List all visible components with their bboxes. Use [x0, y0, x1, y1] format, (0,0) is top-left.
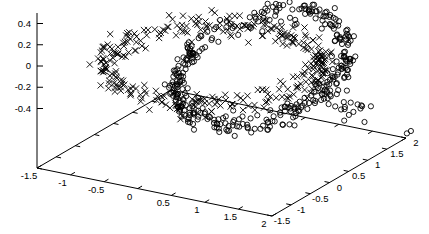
cross-marker: [276, 35, 282, 41]
cross-marker: [98, 82, 104, 88]
circle-marker: [346, 112, 351, 117]
cross-marker: [273, 95, 279, 101]
series-ring-2-stray: [404, 128, 413, 136]
x-tick: [104, 179, 108, 182]
cross-marker: [180, 13, 186, 19]
y-tick-label: 0: [337, 182, 342, 193]
cross-marker: [132, 47, 138, 53]
x-tick-label: -1: [58, 177, 66, 188]
x-tick: [37, 165, 41, 168]
circle-marker: [236, 32, 241, 37]
circle-marker: [348, 100, 353, 105]
circle-marker: [255, 113, 260, 118]
y-tick-mirror: [37, 168, 42, 169]
y-tick-label: -1: [297, 204, 305, 215]
circle-marker: [339, 107, 344, 112]
y-tick-label: 1: [375, 159, 380, 170]
circle-marker: [217, 129, 222, 134]
x-tick-mirror: [402, 138, 406, 141]
y-tick-label: 1.5: [390, 148, 403, 159]
cross-marker: [238, 95, 244, 101]
cross-marker: [123, 54, 129, 60]
cross-marker: [285, 86, 291, 92]
cross-marker: [193, 16, 199, 22]
cross-marker: [138, 38, 144, 44]
circle-marker: [305, 106, 310, 111]
circle-marker: [342, 118, 347, 123]
cross-marker: [316, 34, 322, 40]
x-tick-label: -1.5: [21, 170, 37, 181]
cross-marker: [115, 44, 121, 50]
circle-marker: [175, 57, 180, 62]
circle-marker: [362, 119, 367, 124]
cross-marker: [133, 85, 139, 91]
circle-marker: [332, 6, 337, 11]
circle-marker: [368, 104, 373, 109]
cross-marker: [234, 92, 240, 98]
x-tick-label: 0.5: [157, 197, 170, 208]
cross-marker: [228, 104, 234, 110]
circle-marker: [218, 17, 223, 22]
cross-marker: [276, 86, 282, 92]
circle-marker: [249, 130, 254, 135]
circle-marker: [176, 63, 181, 68]
cross-marker: [279, 94, 285, 100]
circle-marker: [351, 34, 356, 39]
circle-marker: [333, 104, 338, 109]
x-tick-mirror: [335, 124, 339, 127]
x-tick: [138, 186, 142, 189]
circle-marker: [260, 29, 265, 34]
circle-marker: [270, 4, 275, 9]
circle-marker: [290, 7, 295, 12]
circle-marker: [318, 13, 323, 18]
cross-marker: [277, 78, 283, 84]
cross-marker: [146, 107, 152, 113]
circle-marker: [232, 133, 237, 138]
circle-marker: [271, 114, 276, 119]
plot-figure: -1.5-1-0.500.511.52-1.5-1-0.500.511.52-0…: [0, 0, 429, 234]
cross-marker: [192, 21, 198, 27]
x-tick-label: 2: [261, 218, 266, 229]
circle-marker: [341, 100, 346, 105]
cross-marker: [296, 41, 302, 47]
x-tick-label: 0: [127, 191, 132, 202]
cross-marker: [302, 62, 308, 68]
y-tick-label: -0.5: [312, 193, 328, 204]
cross-marker: [143, 45, 149, 51]
circle-marker: [216, 39, 221, 44]
cross-marker: [107, 31, 113, 37]
circle-marker: [313, 16, 318, 21]
cross-marker: [133, 39, 139, 45]
y-tick: [267, 215, 272, 216]
cross-marker: [145, 27, 151, 33]
series-ring-2-circles-spur: [326, 100, 374, 125]
y-tick-mirror: [56, 157, 61, 158]
cross-marker: [107, 44, 113, 50]
cross-marker: [237, 13, 243, 19]
y-tick-mirror: [114, 123, 119, 124]
scatter3d-plot: -1.5-1-0.500.511.52-1.5-1-0.500.511.52-0…: [0, 0, 429, 234]
cross-marker: [152, 26, 158, 32]
cross-marker: [194, 91, 200, 97]
circle-marker: [190, 121, 195, 126]
circle-marker: [200, 106, 205, 111]
cross-marker: [301, 24, 307, 30]
cross-marker: [301, 69, 307, 75]
circle-marker: [248, 116, 253, 121]
y-tick-label: 2: [413, 137, 418, 148]
circle-marker: [279, 105, 284, 110]
x-axis-front-edge: [37, 168, 272, 216]
x-tick-label: 1: [194, 204, 199, 215]
circle-marker: [292, 123, 297, 128]
cross-marker: [166, 12, 172, 18]
cross-marker: [173, 32, 179, 38]
y-axis-front-edge: [272, 138, 406, 216]
cross-marker: [139, 43, 145, 49]
x-tick-label: 1.5: [224, 211, 237, 222]
y-tick: [325, 182, 330, 183]
cross-marker: [222, 92, 228, 98]
cross-marker: [141, 82, 147, 88]
cross-marker: [315, 43, 321, 49]
cross-marker: [105, 85, 111, 91]
cross-marker: [133, 47, 139, 53]
